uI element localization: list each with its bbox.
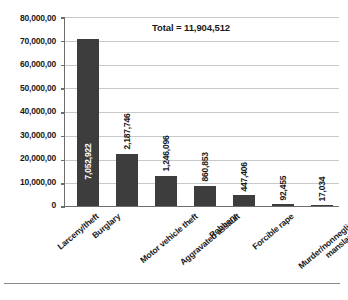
bar-burglary[interactable] bbox=[116, 154, 138, 206]
plot-area: 7,052,922 2,187,746 1,246,096 860,853 44… bbox=[64, 17, 339, 207]
bar-value-label: 17,034 bbox=[318, 176, 327, 201]
gridline bbox=[65, 183, 339, 184]
x-tick-label-robbery: Robbery bbox=[208, 212, 239, 240]
x-tick-line1: Robbery bbox=[207, 211, 239, 240]
y-tick-label: 20,000,00 bbox=[0, 154, 56, 163]
gridline bbox=[65, 65, 339, 66]
bar-value-label: 7,052,922 bbox=[84, 143, 93, 179]
y-tick-mark bbox=[61, 206, 65, 208]
bar-value-label: 92,455 bbox=[279, 175, 288, 200]
y-tick-mark bbox=[61, 136, 65, 138]
bar-value-label: 860,853 bbox=[201, 152, 210, 181]
bar-robbery[interactable] bbox=[233, 195, 255, 206]
y-tick-mark bbox=[61, 183, 65, 185]
y-tick-mark bbox=[61, 65, 65, 67]
y-tick-mark bbox=[61, 112, 65, 114]
gridline bbox=[65, 88, 339, 89]
y-tick-label: 30,000,00 bbox=[0, 131, 56, 140]
gridline bbox=[65, 41, 339, 42]
x-tick-label-forcible-rape: Forcible rape bbox=[251, 212, 296, 251]
y-tick-label: 0 bbox=[0, 201, 56, 210]
gridline bbox=[65, 17, 339, 18]
bar-forcible-rape[interactable] bbox=[272, 204, 294, 206]
y-tick-mark bbox=[61, 160, 65, 162]
y-tick-label: 50,000,00 bbox=[0, 84, 56, 93]
bar-motor-vehicle-theft[interactable] bbox=[155, 176, 177, 206]
gridline bbox=[65, 112, 339, 113]
bar-larceny-theft[interactable] bbox=[77, 39, 99, 207]
y-tick-mark bbox=[61, 41, 65, 43]
bar-value-label: 447,406 bbox=[240, 162, 249, 191]
bar-chart-figure: 80,000,00 70,000,00 60,000,00 50,000,00 … bbox=[0, 0, 348, 300]
y-tick-mark bbox=[61, 17, 65, 19]
x-tick-line1: Forcible rape bbox=[250, 211, 295, 251]
total-annotation: Total = 11,904,512 bbox=[152, 22, 230, 33]
y-tick-label: 80,000,00 bbox=[0, 14, 56, 23]
x-tick-label-murder-manslaughter: Murder/nonnegligent manslaughter bbox=[297, 212, 348, 278]
bar-aggravated-assault[interactable] bbox=[194, 186, 216, 206]
y-tick-label: 70,000,00 bbox=[0, 37, 56, 46]
bar-value-label: 2,187,746 bbox=[123, 113, 132, 149]
bar-murder-manslaughter[interactable] bbox=[311, 205, 333, 206]
y-tick-label: 40,000,00 bbox=[0, 107, 56, 116]
y-tick-label: 10,000,00 bbox=[0, 178, 56, 187]
bottom-divider bbox=[4, 283, 340, 284]
gridline bbox=[65, 136, 339, 137]
y-tick-label: 60,000,00 bbox=[0, 60, 56, 69]
y-tick-mark bbox=[61, 88, 65, 90]
bar-value-label: 1,246,096 bbox=[162, 135, 171, 171]
